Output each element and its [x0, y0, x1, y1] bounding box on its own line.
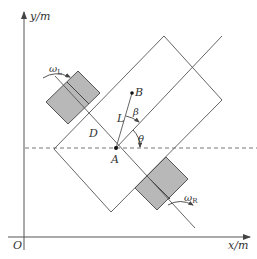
- point-B: [130, 91, 134, 95]
- axle-line: [55, 76, 195, 228]
- label-D: D: [88, 127, 98, 140]
- right-wheel: [135, 157, 188, 210]
- label-beta: β: [132, 106, 139, 117]
- x-axis-label: x/m: [228, 239, 248, 252]
- y-axis-label: y/m: [29, 10, 50, 23]
- label-A: A: [110, 153, 119, 166]
- label-L: L: [116, 112, 124, 125]
- label-B: B: [134, 86, 143, 99]
- robot-kinematics-diagram: y/m x/m O A B D L β θ ωL ωR: [0, 0, 257, 259]
- label-theta: θ: [138, 133, 144, 144]
- label-omega-right: ωR: [184, 192, 198, 205]
- origin-label: O: [13, 239, 22, 252]
- point-A: [114, 146, 118, 150]
